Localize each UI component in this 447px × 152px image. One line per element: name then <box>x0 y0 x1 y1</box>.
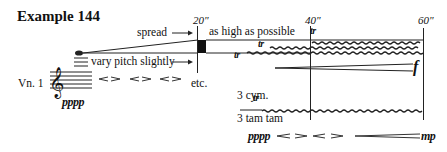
score-graphics: 𝄞 <box>0 0 447 152</box>
treble-clef-icon: 𝄞 <box>49 67 64 99</box>
